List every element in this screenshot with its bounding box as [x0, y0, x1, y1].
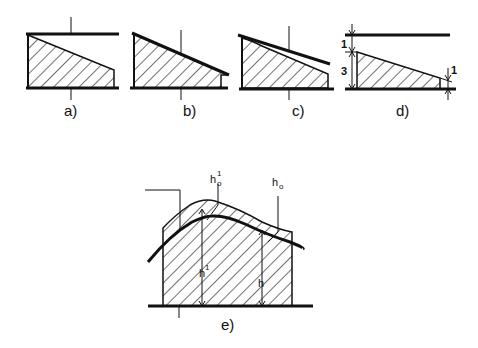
- technical-diagram: a) b) c) 1 3 1: [0, 0, 478, 348]
- panel-label-c: c): [292, 102, 305, 119]
- dimension-top-gap: 1: [341, 38, 347, 50]
- label-h0-prime: h: [210, 173, 216, 185]
- dimension-extension-right: [440, 78, 452, 82]
- label-h0-prime-sup: 1: [217, 169, 222, 178]
- hatched-region: [242, 38, 328, 88]
- panel-label-a: a): [64, 102, 77, 119]
- dimension-right-gap: 1: [451, 64, 457, 76]
- panel-label-b: b): [183, 102, 196, 119]
- label-h0: h: [272, 176, 278, 188]
- label-h-prime-sup: 1: [205, 263, 210, 272]
- panel-d: 1 3 1 d): [341, 24, 457, 119]
- panel-label-d: d): [396, 102, 409, 119]
- hatched-region: [163, 200, 292, 306]
- label-h: h: [258, 277, 264, 289]
- label-h0-prime-sub: o: [217, 179, 222, 188]
- panel-e: h 1 o h o h 1 h e): [145, 169, 313, 333]
- panel-label-e: e): [221, 316, 234, 333]
- hatched-region: [357, 52, 440, 89]
- panel-a: a): [26, 17, 119, 119]
- panel-c: c): [238, 26, 334, 119]
- panel-b: b): [130, 30, 229, 119]
- dimension-height: 3: [341, 65, 347, 77]
- hatched-region: [28, 35, 114, 88]
- label-h0-sub: o: [279, 182, 284, 191]
